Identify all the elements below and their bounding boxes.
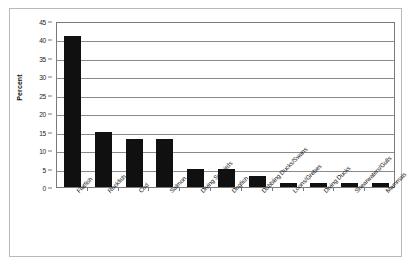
y-axis-tick-mark <box>48 22 52 23</box>
bar <box>95 132 112 187</box>
x-axis-tick-labels: FlatfishRockfishCodSalmonDiving Seabirds… <box>56 189 401 259</box>
y-axis-tick-label: 30 <box>39 74 46 81</box>
y-axis-tick-mark <box>48 95 52 96</box>
y-axis-tick-label: 5 <box>43 166 46 173</box>
bar <box>64 36 81 187</box>
gridline <box>57 41 394 42</box>
y-axis-tick-labels: 051015202530354045 <box>0 22 52 188</box>
y-axis-tick-mark <box>48 151 52 152</box>
y-axis-tick-label: 20 <box>39 111 46 118</box>
y-axis-tick-mark <box>48 132 52 133</box>
y-axis-tick-label: 45 <box>39 19 46 26</box>
y-axis-tick-mark <box>48 58 52 59</box>
gridline <box>57 115 394 116</box>
y-axis-tick-mark <box>48 169 52 170</box>
y-axis-tick-label: 10 <box>39 148 46 155</box>
y-axis-tick-mark <box>48 114 52 115</box>
y-axis-tick-label: 15 <box>39 129 46 136</box>
bar <box>126 139 143 187</box>
y-axis-tick-label: 0 <box>43 185 46 192</box>
chart-figure: Percent 051015202530354045 FlatfishRockf… <box>0 0 412 266</box>
y-axis-tick-mark <box>48 188 52 189</box>
bar <box>156 139 173 187</box>
y-axis-tick-mark <box>48 77 52 78</box>
y-axis-tick-label: 25 <box>39 92 46 99</box>
bar <box>187 169 204 187</box>
gridline <box>57 97 394 98</box>
y-axis-tick-label: 35 <box>39 55 46 62</box>
y-axis-tick-mark <box>48 40 52 41</box>
gridline <box>57 78 394 79</box>
gridline <box>57 60 394 61</box>
y-axis-tick-label: 40 <box>39 37 46 44</box>
